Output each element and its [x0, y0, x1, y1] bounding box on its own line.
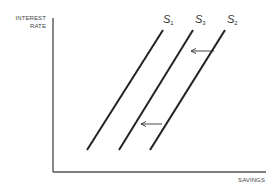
y-axis-label-line-1: INTEREST	[16, 14, 46, 22]
y-axis-label-line-2: RATE	[16, 22, 46, 30]
series-label-s1: S1	[163, 13, 174, 26]
supply-line-s2	[150, 30, 225, 150]
series-label-s2: S2	[227, 13, 238, 26]
y-axis-label: INTEREST RATE	[16, 14, 46, 30]
series-label-sub: 2	[234, 20, 237, 26]
series-label-s3: S3	[195, 13, 206, 26]
supply-line-s1	[87, 30, 163, 150]
series-label-sub: 3	[202, 20, 205, 26]
series-label-sub: 1	[170, 20, 173, 26]
supply-line-s3	[119, 30, 193, 150]
x-axis-label: SAVINGS	[238, 177, 265, 183]
